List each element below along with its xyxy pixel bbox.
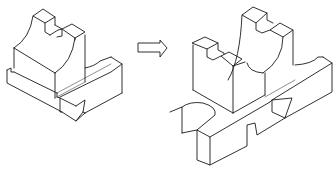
diagram-svg — [0, 0, 336, 174]
result-assembly — [170, 7, 332, 165]
assembly-base — [170, 57, 332, 165]
front-saddle-block — [192, 37, 265, 113]
base-slab — [7, 57, 122, 121]
back-saddle-block — [228, 7, 293, 80]
original-part — [7, 9, 122, 121]
diagram-canvas — [0, 0, 336, 174]
transform-arrow-icon — [138, 40, 167, 57]
saddle-block — [14, 9, 85, 98]
